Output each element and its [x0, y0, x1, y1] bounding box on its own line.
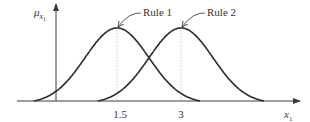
x-axis-label: x1	[283, 108, 293, 122]
x-axis-label-subscript: 1	[289, 115, 293, 122]
y-axis-label-subsubscript: 1	[43, 16, 46, 22]
membership-diagram: Rule 1 Rule 2 1.5 3 μx1 x1	[0, 0, 310, 122]
rule-2-leader-arrow	[182, 13, 205, 27]
y-axis-label: μx1	[33, 6, 46, 22]
rule-1-leader-arrow	[118, 13, 141, 27]
rule-2-label: Rule 2	[207, 6, 236, 18]
rule-1-label: Rule 1	[143, 6, 172, 18]
tick-label-1-5: 1.5	[113, 108, 127, 120]
tick-label-3: 3	[178, 108, 184, 120]
